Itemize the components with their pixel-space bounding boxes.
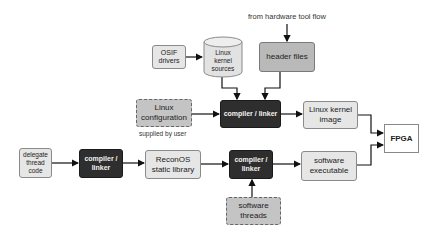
linux-kernel-sources-label: Linux kernel sources <box>207 49 239 73</box>
reconos-static-library-box: ReconOS static library <box>145 150 201 179</box>
compiler-linker-bottom-box: compiler / linker <box>229 150 273 179</box>
header-files-box: header files <box>259 42 315 72</box>
linux-kernel-image-box: Linux kernel image <box>303 101 358 129</box>
supplied-by-user-label: supplied by user <box>139 130 186 137</box>
compiler-linker-left-box: compiler / linker <box>79 149 123 178</box>
fpga-box: FPGA <box>384 124 419 153</box>
compiler-linker-top-box: compiler / linker <box>220 100 281 128</box>
linux-configuration-box: Linux configuration <box>136 99 192 127</box>
linux-kernel-sources-cylinder: Linux kernel sources <box>203 36 243 78</box>
delegate-thread-code-box: delegate thread code <box>19 148 52 178</box>
software-executable-box: software executable <box>301 151 357 181</box>
hardware-tool-flow-label: from hardware tool flow <box>248 12 326 21</box>
osif-drivers-box: OSIF drivers <box>152 45 186 69</box>
software-threads-box: software threads <box>226 197 281 225</box>
